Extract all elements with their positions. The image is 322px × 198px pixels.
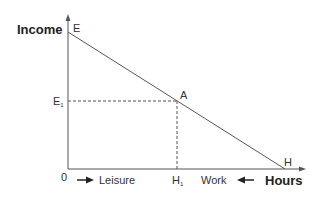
y-axis-arrow-icon bbox=[66, 14, 71, 21]
x-axis-arrow-icon bbox=[299, 167, 306, 172]
work-label: Work bbox=[201, 175, 226, 186]
y-axis-label: Income bbox=[17, 23, 63, 36]
x-axis-label: Hours bbox=[265, 174, 303, 187]
leisure-arrow-icon bbox=[86, 177, 94, 184]
work-arrow-icon bbox=[237, 177, 245, 184]
point-h1-main: H bbox=[172, 174, 180, 186]
point-h1-sub: 1 bbox=[180, 181, 183, 187]
origin-label: 0 bbox=[61, 172, 67, 183]
leisure-label: Leisure bbox=[99, 175, 135, 186]
point-e1-sub: 1 bbox=[60, 102, 63, 108]
point-h1-label: H1 bbox=[172, 175, 183, 187]
point-e-label: E bbox=[73, 23, 80, 34]
point-h-label: H bbox=[284, 157, 292, 168]
point-a-label: A bbox=[180, 90, 187, 101]
point-e1-label: E1 bbox=[53, 96, 64, 108]
